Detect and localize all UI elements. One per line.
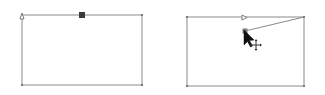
corner-anchor-icon[interactable] (21, 84, 23, 86)
arrow-direction-marker-icon (242, 15, 247, 20)
corner-anchor-icon[interactable] (141, 14, 143, 16)
panel-after (186, 15, 305, 87)
dragged-segment (245, 17, 304, 31)
corner-anchor-icon[interactable] (303, 85, 305, 87)
corner-anchor-icon[interactable] (186, 16, 188, 18)
rectangle-path[interactable] (187, 17, 304, 86)
arrow-pointer-cursor-icon (244, 30, 254, 47)
triangle-start-marker-icon (20, 13, 24, 19)
corner-anchor-icon[interactable] (186, 85, 188, 87)
corner-anchor-icon[interactable] (141, 84, 143, 86)
corner-anchor-icon[interactable] (303, 16, 305, 18)
rectangle-path[interactable] (22, 15, 142, 85)
filled-square-anchor-icon[interactable] (79, 12, 85, 18)
panel-before (20, 12, 143, 86)
move-crosshair-icon (251, 40, 261, 50)
diagram-canvas (0, 0, 325, 95)
